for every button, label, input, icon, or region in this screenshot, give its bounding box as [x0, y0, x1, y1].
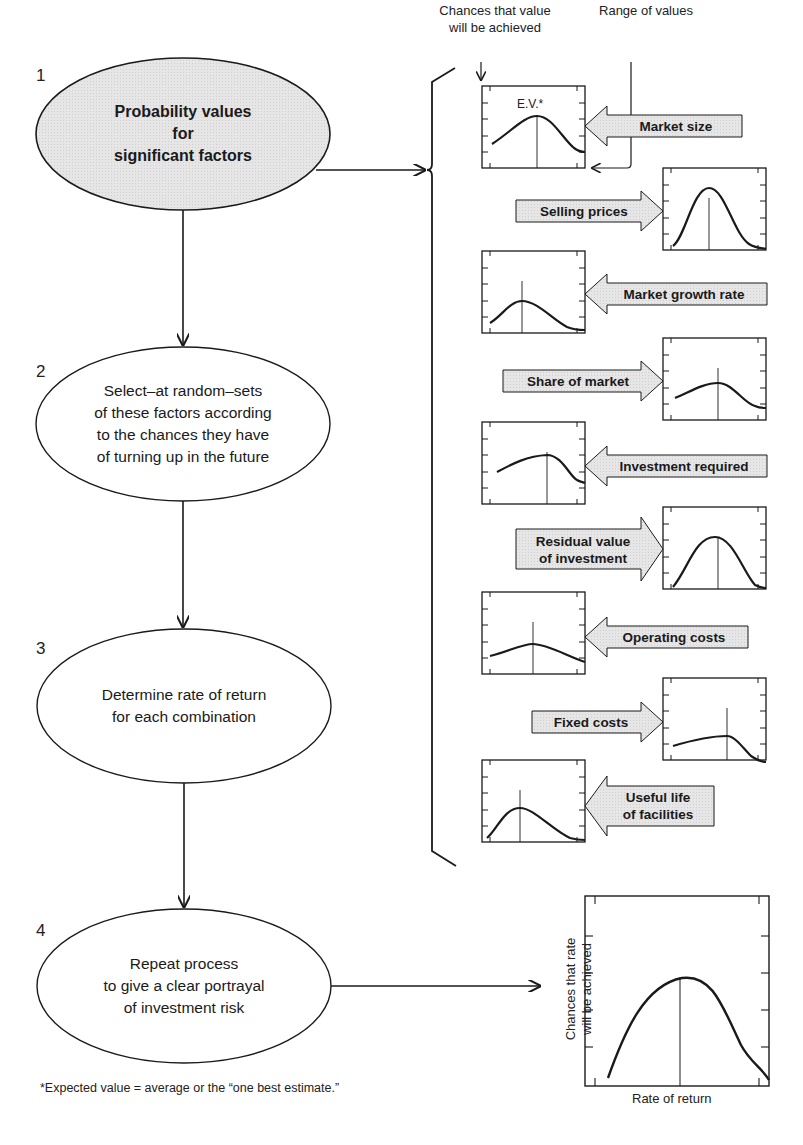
step-4-text: Repeat process to give a clear portrayal…: [60, 948, 308, 1024]
result-chart: [585, 896, 769, 1086]
step-1-text: Probability values for significant facto…: [60, 90, 306, 178]
factor-label-useful-life: Useful life of facilities: [600, 786, 716, 826]
factor-chart-fixed-costs: [663, 678, 766, 762]
step-3-number: 3: [36, 639, 45, 659]
factor-label-market-growth-rate: Market growth rate: [600, 283, 768, 305]
factor-chart-selling-prices: [663, 168, 766, 250]
factor-chart-residual-value: [663, 507, 766, 589]
factor-chart-share-of-market: [663, 338, 766, 420]
factor-label-market-size: Market size: [610, 115, 742, 137]
range-annotation: Range of values: [586, 2, 706, 19]
factor-chart-operating-costs: [482, 592, 585, 674]
factor-label-residual-value: Residual value of investment: [517, 530, 649, 570]
factor-chart-useful-life: [482, 760, 585, 842]
chances-annotation: Chances that value will be achieved: [430, 2, 560, 36]
factor-label-operating-costs: Operating costs: [600, 626, 748, 648]
step-3-text: Determine rate of return for each combin…: [60, 680, 308, 732]
factor-label-selling-prices: Selling prices: [518, 200, 650, 222]
factor-chart-market-growth-rate: [482, 251, 585, 333]
step-1-number: 1: [36, 66, 45, 86]
factor-label-share-of-market: Share of market: [503, 370, 653, 392]
step-2-text: Select–at random–sets of these factors a…: [50, 370, 316, 478]
step-2-number: 2: [36, 362, 45, 382]
factor-chart-investment-required: [482, 422, 585, 504]
result-ylabel: Chances that rate will be achieved: [563, 919, 597, 1059]
factor-label-fixed-costs: Fixed costs: [532, 711, 650, 733]
ev-annotation: E.V.*: [517, 97, 543, 111]
factors-bracket: [427, 68, 456, 866]
factor-label-investment-required: Investment required: [600, 455, 768, 477]
result-xlabel: Rate of return: [632, 1091, 712, 1106]
step-4-number: 4: [36, 921, 45, 941]
footnote: *Expected value = average or the “one be…: [40, 1081, 339, 1095]
